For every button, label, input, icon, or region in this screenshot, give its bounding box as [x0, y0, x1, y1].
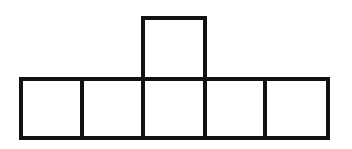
- net-square-row-1: [19, 77, 84, 140]
- net-square-row-2: [80, 77, 145, 140]
- net-square-top: [141, 16, 207, 81]
- net-square-row-4: [203, 77, 268, 140]
- net-square-row-3: [141, 77, 207, 140]
- net-square-row-5: [263, 77, 330, 140]
